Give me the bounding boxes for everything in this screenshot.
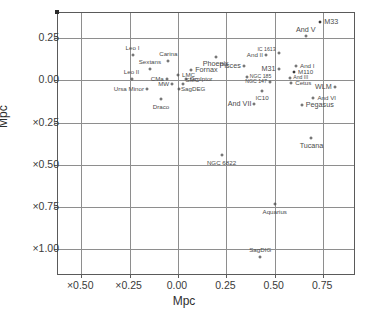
x-axis-tick-label: 0.25	[215, 279, 235, 291]
corner-marker	[55, 10, 59, 14]
y-axis-tick-label: 0.25	[39, 31, 59, 43]
data-point	[290, 82, 293, 85]
data-point-label: M31	[262, 65, 276, 72]
data-point-label: And VII	[228, 100, 252, 107]
data-point	[167, 59, 170, 62]
data-point	[268, 80, 271, 83]
data-point	[304, 35, 307, 38]
y-axis-tick-label: ×0.75	[32, 200, 59, 212]
data-point-label: Draco	[153, 104, 170, 110]
data-point	[253, 103, 256, 106]
data-point-label: And V	[296, 27, 316, 34]
data-point	[261, 89, 264, 92]
gridline-vertical	[81, 13, 82, 274]
data-point-label: Aquarius	[263, 209, 287, 215]
y-axis-tick-label: ×0.25	[32, 116, 59, 128]
x-axis-tick	[226, 274, 227, 278]
data-point	[131, 53, 134, 56]
data-point	[295, 65, 298, 68]
data-point-label: NGC 6822	[207, 160, 236, 166]
data-point	[319, 21, 322, 24]
data-point	[214, 55, 217, 58]
data-point	[265, 53, 268, 56]
data-point-label: M33	[324, 19, 338, 26]
x-axis-tick	[81, 274, 82, 278]
data-point-label: Pegasus	[306, 101, 334, 108]
x-axis-tick-label: 0.00	[167, 279, 187, 291]
data-point	[242, 65, 245, 68]
data-point-label: NGC 147	[245, 79, 267, 84]
data-point-label: Ursa Minor	[114, 86, 144, 92]
gridline-vertical	[130, 13, 131, 274]
data-point	[259, 255, 262, 258]
data-point	[310, 136, 313, 139]
plot-area: M33And VLeo ICarinaPhoenixAnd IIIC 1613A…	[57, 12, 355, 275]
gridline-horizontal	[58, 123, 354, 124]
gridline-vertical	[226, 13, 227, 274]
x-axis-tick-label: ×0.50	[67, 279, 94, 291]
data-point	[130, 77, 133, 80]
x-axis-tick	[130, 274, 131, 278]
data-point	[293, 71, 296, 74]
data-point-label: IC10	[256, 94, 269, 100]
y-axis-tick-label: ×0.50	[32, 158, 59, 170]
data-point	[220, 153, 223, 156]
data-point	[171, 83, 174, 86]
data-point-label: Tucana	[300, 142, 324, 149]
data-point-label: Leo I	[126, 45, 140, 51]
data-point	[312, 97, 315, 100]
x-axis-tick-label: 0.50	[264, 279, 284, 291]
data-point	[289, 77, 292, 80]
x-axis-tick-label: ×0.25	[115, 279, 142, 291]
gridline-horizontal	[58, 38, 354, 39]
y-axis-tick-label: 0.00	[39, 73, 59, 85]
data-point-label: Carina	[159, 50, 177, 56]
data-point-label: Pisces	[220, 62, 241, 69]
x-axis-tick	[323, 274, 324, 278]
x-axis-tick-label: 0.75	[312, 279, 332, 291]
data-point	[273, 203, 276, 206]
data-point	[277, 67, 280, 70]
data-point-label: SagDIG	[249, 247, 271, 253]
data-point-label: Leo II	[124, 69, 139, 75]
data-point-label: Fornax	[195, 66, 217, 73]
x-axis-tick	[178, 274, 179, 278]
data-point	[148, 67, 151, 70]
y-axis-title: Mpc	[0, 105, 10, 128]
data-point	[176, 74, 179, 77]
gridline-horizontal	[58, 207, 354, 208]
y-axis-tick-label: ×1.00	[32, 242, 59, 254]
x-axis-tick	[275, 274, 276, 278]
data-point-label: Cetus	[295, 80, 311, 86]
x-axis-title: Mpc	[0, 294, 368, 308]
scatter-plot-figure: M33And VLeo ICarinaPhoenixAnd IIIC 1613A…	[0, 0, 368, 319]
data-point	[146, 88, 149, 91]
data-point	[159, 98, 162, 101]
data-point-label: Sextans	[139, 59, 161, 65]
data-point-label: MW	[158, 81, 169, 87]
data-point	[277, 52, 280, 55]
data-point-label: IC 1613	[257, 48, 275, 53]
data-point	[300, 103, 303, 106]
data-point-label: WLM	[315, 84, 332, 91]
data-point-label: SagDEG	[181, 86, 205, 92]
gridline-horizontal	[58, 249, 354, 250]
data-point	[333, 86, 336, 89]
gridline-vertical	[178, 13, 179, 274]
data-point-label: SMC	[185, 77, 199, 83]
